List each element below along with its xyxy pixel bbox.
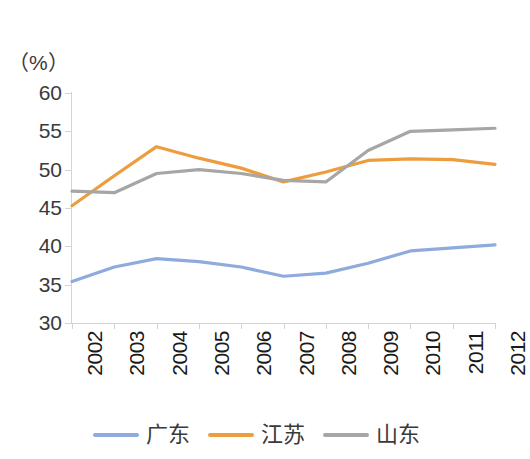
- legend-item-山东[interactable]: 山东: [323, 424, 420, 446]
- legend-item-广东[interactable]: 广东: [93, 424, 190, 446]
- series-line-江苏: [72, 147, 495, 206]
- series-line-广东: [72, 245, 495, 282]
- legend-item-江苏[interactable]: 江苏: [208, 424, 305, 446]
- chart-legend: 广东江苏山东: [0, 424, 512, 446]
- legend-label: 山东: [376, 424, 420, 446]
- legend-label: 江苏: [261, 424, 305, 446]
- legend-swatch-icon: [93, 433, 139, 437]
- legend-swatch-icon: [208, 433, 254, 437]
- legend-swatch-icon: [323, 433, 369, 437]
- legend-label: 广东: [146, 424, 190, 446]
